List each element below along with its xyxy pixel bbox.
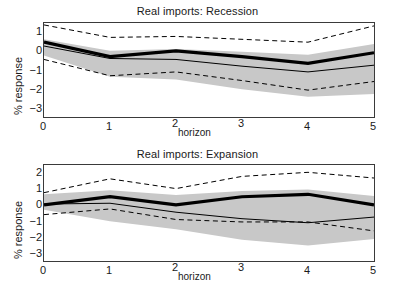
x-tick-label: 4 xyxy=(297,265,317,276)
x-tick-label: 0 xyxy=(33,265,53,276)
panel-title-recession: Real imports: Recession xyxy=(0,5,395,17)
panel-expansion: Real imports: Expansion % response 210−1… xyxy=(0,144,395,288)
panel-title-expansion: Real imports: Expansion xyxy=(0,148,395,160)
plot-svg-expansion xyxy=(44,165,374,261)
y-tick-label: 1 xyxy=(36,183,42,194)
y-tick-label: 0 xyxy=(36,45,42,56)
y-axis-label-recession: % response xyxy=(12,57,24,115)
x-tick-label: 3 xyxy=(231,262,251,273)
plot-area-expansion xyxy=(43,164,375,262)
x-tick-label: 3 xyxy=(231,118,251,129)
y-tick-label: −1 xyxy=(29,216,42,227)
x-tick-label: 0 xyxy=(33,121,53,132)
plot-svg-recession xyxy=(44,23,374,117)
plot-area-recession xyxy=(43,22,375,118)
y-tick-label: −3 xyxy=(29,103,42,114)
y-tick-label: −2 xyxy=(29,232,42,243)
confidence-band-dashed-line xyxy=(44,25,374,42)
y-tick-label: 2 xyxy=(36,167,42,178)
y-tick-label: 1 xyxy=(36,26,42,37)
x-tick-label: 5 xyxy=(363,265,383,276)
x-tick-label: 1 xyxy=(99,121,119,132)
x-axis-label-recession: horizon xyxy=(178,127,211,138)
y-tick-label: −3 xyxy=(29,248,42,259)
panel-recession: Real imports: Recession % response 10−1−… xyxy=(0,0,395,144)
x-tick-label: 4 xyxy=(297,121,317,132)
y-tick-label: −2 xyxy=(29,84,42,95)
x-tick-label: 5 xyxy=(363,121,383,132)
y-tick-label: −1 xyxy=(29,65,42,76)
confidence-band-dashed-line xyxy=(44,172,374,192)
x-axis-label-expansion: horizon xyxy=(178,271,211,282)
y-axis-label-expansion: % response xyxy=(12,201,24,259)
y-tick-label: 0 xyxy=(36,199,42,210)
figure-impulse-responses: Real imports: Recession % response 10−1−… xyxy=(0,0,395,288)
x-tick-label: 1 xyxy=(99,265,119,276)
